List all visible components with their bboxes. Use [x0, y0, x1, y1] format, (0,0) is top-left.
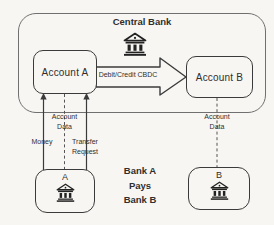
bank-b-box: B	[188, 167, 250, 210]
transfer-request-label: Transfer Request	[64, 137, 106, 157]
bank-icon	[210, 181, 229, 200]
account-b-box: Account B	[186, 56, 253, 98]
bank-a-box: A	[35, 169, 95, 213]
cbdc-flow-diagram: Central Bank Account A Account B Debit/C…	[0, 0, 274, 225]
account-a-box: Account A	[33, 50, 97, 94]
bank-a-label: A	[62, 172, 68, 183]
account-b-label: Account B	[196, 72, 243, 83]
bank-icon	[56, 183, 75, 202]
money-label: Money	[26, 137, 58, 147]
payment-caption: Bank A Pays Bank B	[108, 164, 172, 208]
bank-b-label: B	[216, 170, 222, 181]
account-data-right-label: Account Data	[194, 112, 240, 132]
account-a-label: Account A	[42, 67, 89, 78]
account-data-left-label: Account Data	[40, 112, 89, 132]
cbdc-arrow-label: Debit/Credit CBDC	[96, 71, 160, 78]
